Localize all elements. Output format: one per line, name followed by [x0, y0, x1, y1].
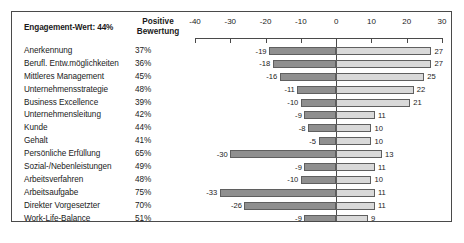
negative-bar-value: -16 [266, 72, 277, 81]
negative-bar-value: -19 [256, 47, 267, 56]
negative-bar-value: -9 [295, 163, 302, 172]
table-row[interactable]: Kunde44%-810 [12, 122, 451, 135]
positive-bar-value: 11 [378, 163, 386, 172]
table-row[interactable]: Unternehmensleitung42%-911 [12, 109, 451, 122]
positive-bar-value: 10 [374, 124, 382, 133]
negative-bar[interactable] [301, 99, 336, 107]
x-axis-tick [195, 38, 196, 43]
positive-bar[interactable] [336, 176, 371, 184]
row-bars: -1122 [12, 84, 451, 97]
row-bars: -1625 [12, 71, 451, 84]
table-row[interactable]: Sozial-/Nebenleistungen49%-911 [12, 161, 451, 174]
row-bars: -3013 [12, 148, 451, 161]
negative-bar[interactable] [304, 163, 336, 171]
negative-bar[interactable] [308, 124, 336, 132]
positive-bar[interactable] [336, 73, 424, 81]
positive-bar-value: 11 [378, 201, 386, 210]
positive-bar[interactable] [336, 163, 375, 171]
x-axis-tick [230, 38, 231, 43]
negative-bar[interactable] [269, 47, 336, 55]
table-row[interactable]: Anerkennung37%-1927 [12, 45, 451, 58]
positive-bar-value: 27 [434, 47, 442, 56]
positive-bar-value: 13 [385, 150, 393, 159]
positive-bar[interactable] [336, 189, 375, 197]
table-row[interactable]: Arbeitsverfahren48%-1010 [12, 174, 451, 187]
negative-bar-value: -33 [206, 188, 217, 197]
positive-bar[interactable] [336, 137, 371, 145]
positive-bar[interactable] [336, 150, 382, 158]
negative-bar-value: -10 [287, 175, 298, 184]
positive-bar-value: 11 [378, 188, 386, 197]
row-bars: -1021 [12, 97, 451, 110]
negative-bar[interactable] [304, 215, 336, 222]
x-axis-tick [266, 38, 267, 43]
table-row[interactable]: Arbeitsaufgabe75%-3311 [12, 187, 451, 200]
positive-bar-value: 10 [374, 137, 382, 146]
row-bars: -1927 [12, 45, 451, 58]
x-axis-tick [301, 38, 302, 43]
positive-bar-value: 21 [413, 98, 421, 107]
negative-bar[interactable] [244, 202, 336, 210]
table-row[interactable]: Work-Life-Balance51%-99 [12, 213, 451, 222]
x-axis-tick-label: 10 [367, 17, 376, 26]
row-bars: -99 [12, 213, 451, 222]
x-axis-tick-label: -30 [225, 17, 237, 26]
positive-bar[interactable] [336, 60, 431, 68]
negative-bar-value: -9 [295, 214, 302, 222]
positive-bar-value: 9 [371, 214, 375, 222]
row-bars: -1010 [12, 174, 451, 187]
table-row[interactable]: Gehalt41%-510 [12, 135, 451, 148]
negative-bar-value: -18 [259, 59, 270, 68]
positive-bar[interactable] [336, 215, 368, 222]
row-bars: -911 [12, 161, 451, 174]
negative-bar[interactable] [280, 73, 336, 81]
positive-bar[interactable] [336, 99, 410, 107]
x-axis-tick-label: -10 [295, 17, 307, 26]
positive-bar-value: 11 [378, 111, 386, 120]
row-bars: -1827 [12, 58, 451, 71]
positive-bar-value: 22 [417, 85, 425, 94]
negative-bar[interactable] [319, 137, 337, 145]
x-axis: -40-30-20-100102030 [12, 12, 451, 45]
negative-bar[interactable] [304, 111, 336, 119]
negative-bar[interactable] [230, 150, 336, 158]
table-row[interactable]: Mittleres Management45%-1625 [12, 71, 451, 84]
table-row[interactable]: Business Excellence39%-1021 [12, 97, 451, 110]
x-axis-tick [407, 38, 408, 43]
row-bars: -510 [12, 135, 451, 148]
negative-bar[interactable] [297, 86, 336, 94]
negative-bar-value: -11 [284, 85, 294, 94]
positive-bar[interactable] [336, 111, 375, 119]
positive-bar[interactable] [336, 202, 375, 210]
negative-bar-value: -9 [295, 111, 302, 120]
row-bars: -3311 [12, 187, 451, 200]
positive-bar-value: 27 [434, 59, 442, 68]
table-row[interactable]: Persönliche Erfüllung65%-3013 [12, 148, 451, 161]
x-axis-tick-label: 0 [334, 17, 338, 26]
x-axis-tick-label: 30 [438, 17, 447, 26]
x-axis-tick [442, 38, 443, 43]
positive-bar[interactable] [336, 86, 414, 94]
positive-bar[interactable] [336, 124, 371, 132]
chart-rows: Anerkennung37%-1927Berufl. Entw.möglichk… [12, 45, 451, 222]
negative-bar[interactable] [301, 176, 336, 184]
row-bars: -2611 [12, 200, 451, 213]
negative-bar-value: -30 [217, 150, 228, 159]
positive-bar[interactable] [336, 47, 431, 55]
positive-bar-value: 25 [427, 72, 435, 81]
negative-bar[interactable] [273, 60, 337, 68]
table-row[interactable]: Unternehmensstrategie48%-1122 [12, 84, 451, 97]
negative-bar-value: -8 [299, 124, 306, 133]
row-bars: -810 [12, 122, 451, 135]
negative-bar-value: -26 [231, 201, 242, 210]
x-axis-tick-label: -20 [260, 17, 272, 26]
engagement-chart-frame: Engagement-Wert: 44% Positive Bewertung … [11, 11, 452, 222]
x-axis-line [195, 38, 442, 39]
negative-bar-value: -10 [287, 98, 298, 107]
table-row[interactable]: Berufl. Entw.möglichkeiten36%-1827 [12, 58, 451, 71]
x-axis-tick-label: -40 [189, 17, 201, 26]
positive-bar-value: 10 [374, 175, 382, 184]
row-bars: -911 [12, 109, 451, 122]
negative-bar[interactable] [220, 189, 336, 197]
table-row[interactable]: Direkter Vorgesetzter70%-2611 [12, 200, 451, 213]
